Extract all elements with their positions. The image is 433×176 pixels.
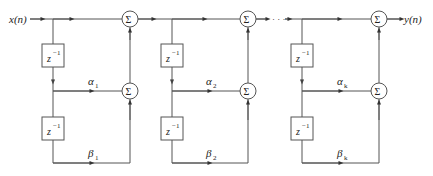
sum-symbol: Σ bbox=[244, 86, 250, 97]
alpha-subscript: k bbox=[344, 82, 348, 90]
alpha-label: α bbox=[337, 75, 343, 87]
sum-symbol: Σ bbox=[244, 14, 250, 25]
sum-symbol: Σ bbox=[375, 86, 381, 97]
beta-label: β bbox=[87, 147, 94, 159]
sum-symbol: Σ bbox=[375, 14, 381, 25]
alpha-label: α bbox=[88, 75, 94, 87]
continuation-ellipsis: · · · bbox=[272, 14, 286, 24]
delay-exponent: −1 bbox=[172, 49, 180, 57]
beta-label: β bbox=[336, 147, 343, 159]
delay-exponent: −1 bbox=[302, 49, 310, 57]
beta-subscript: 2 bbox=[213, 154, 217, 162]
delay-exponent: −1 bbox=[53, 49, 61, 57]
delay-label: z bbox=[295, 53, 300, 64]
beta-label: β bbox=[205, 147, 212, 159]
stage-1: Σ Σ z −1 z −1 α 1 β 1 bbox=[42, 11, 138, 163]
input-label: x(n) bbox=[8, 13, 27, 26]
stage-2: Σ Σ z −1 z −1 α 2 β 2 bbox=[161, 11, 256, 163]
beta-subscript: k bbox=[344, 154, 348, 162]
stage-k: Σ Σ z −1 z −1 α k β k bbox=[291, 11, 387, 163]
delay-exponent: −1 bbox=[53, 122, 61, 130]
beta-subscript: 1 bbox=[95, 154, 99, 162]
sum-symbol: Σ bbox=[126, 14, 132, 25]
delay-exponent: −1 bbox=[172, 122, 180, 130]
alpha-subscript: 2 bbox=[213, 82, 217, 90]
delay-exponent: −1 bbox=[302, 122, 310, 130]
delay-label: z bbox=[165, 126, 170, 137]
delay-label: z bbox=[46, 53, 51, 64]
delay-label: z bbox=[295, 126, 300, 137]
alpha-subscript: 1 bbox=[95, 82, 99, 90]
filter-block-diagram: x(n) · · · y(n) bbox=[0, 0, 433, 176]
delay-label: z bbox=[165, 53, 170, 64]
sum-symbol: Σ bbox=[126, 86, 132, 97]
output-label: y(n) bbox=[403, 13, 422, 26]
delay-label: z bbox=[46, 126, 51, 137]
alpha-label: α bbox=[206, 75, 212, 87]
